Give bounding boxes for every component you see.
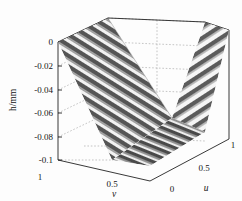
y-axis-label: h/mm: [8, 88, 18, 111]
u-tick-1: 1: [231, 140, 236, 150]
v-tick-1: 1: [38, 172, 43, 182]
y-tick-5: -0.1: [39, 155, 53, 165]
y-tick-1: -0.02: [34, 61, 53, 71]
v-axis-label: v: [112, 189, 117, 199]
v-tick-0: 0: [170, 184, 175, 194]
y-axis-ticks: [58, 42, 62, 160]
y-tick-0: 0: [49, 37, 54, 47]
plot-canvas: 0 -0.02 -0.04 -0.06 -0.08 -0.1 1 0.5 0 0…: [0, 0, 242, 201]
figure-3d-surface-plot: 0 -0.02 -0.04 -0.06 -0.08 -0.1 1 0.5 0 0…: [0, 0, 242, 201]
y-tick-3: -0.06: [34, 108, 53, 118]
y-tick-4: -0.08: [34, 132, 53, 142]
surface-mesh: [58, 18, 229, 166]
u-axis-label: u: [204, 183, 209, 193]
y-tick-2: -0.04: [34, 85, 53, 95]
v-tick-05: 0.5: [106, 179, 118, 189]
u-tick-05: 0.5: [198, 163, 210, 173]
